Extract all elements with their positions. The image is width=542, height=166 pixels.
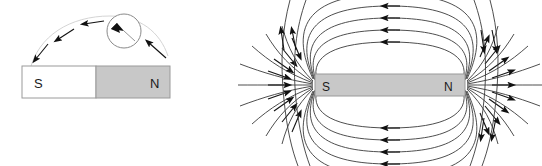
north-pole-label: N <box>444 80 453 94</box>
magnetism-figure: S N <box>0 0 542 166</box>
compass <box>107 14 141 48</box>
bar-magnet-right: S N <box>315 74 465 96</box>
south-pole-label: S <box>34 76 43 91</box>
bar-magnet-left: S N <box>22 66 170 98</box>
magnet-body <box>315 74 465 96</box>
north-pole-label: N <box>150 76 159 91</box>
south-pole-label: S <box>322 80 330 94</box>
